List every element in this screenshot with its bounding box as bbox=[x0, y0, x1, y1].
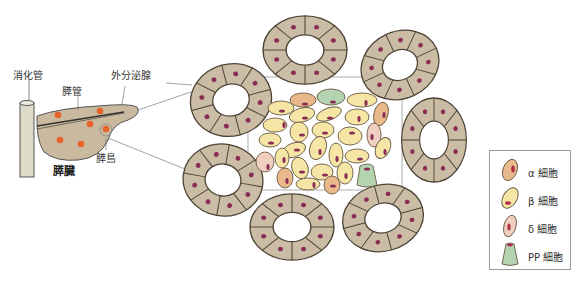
legend-item-beta: β 細胞 bbox=[490, 185, 570, 211]
legend-label-pp: PP 細胞 bbox=[528, 249, 563, 264]
legend-item-pp: PP 細胞 bbox=[490, 241, 570, 267]
beta-cell-icon bbox=[498, 185, 522, 211]
label-islet: 膵島 bbox=[96, 154, 116, 164]
islet-cells bbox=[256, 89, 394, 194]
delta-cell-icon bbox=[498, 213, 522, 239]
label-exocrine-gland: 外分泌腺 bbox=[111, 71, 151, 81]
pp-cell-icon bbox=[498, 241, 522, 267]
legend-label-beta: β 細胞 bbox=[528, 193, 558, 208]
legend-item-alpha: α 細胞 bbox=[490, 157, 570, 183]
label-digestive-tract: 消化管 bbox=[13, 71, 43, 81]
digestive-tract-tube bbox=[20, 80, 34, 177]
cell-type-legend: α 細胞 β 細胞 δ 細胞 PP 細胞 bbox=[489, 150, 571, 270]
legend-label-alpha: α 細胞 bbox=[528, 165, 558, 180]
alpha-cell-icon bbox=[498, 157, 522, 183]
legend-label-delta: δ 細胞 bbox=[528, 221, 557, 236]
label-pancreatic-duct: 膵管 bbox=[62, 87, 82, 97]
legend-item-delta: δ 細胞 bbox=[490, 213, 570, 239]
pancreas-organ bbox=[37, 86, 138, 160]
label-pancreas: 膵臓 bbox=[53, 166, 75, 177]
